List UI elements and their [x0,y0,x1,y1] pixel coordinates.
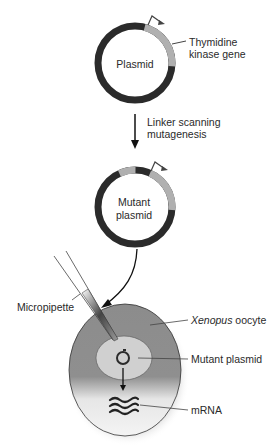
oocyte-label: Xenopus oocyte [191,314,266,326]
curved-arrow-icon [105,249,137,305]
plasmid-label: Plasmid [116,58,153,70]
step-label-line2: mutagenesis [147,128,207,140]
mutant-plasmid-label-line2: plasmid [116,209,152,221]
mutant-plasmid-label-line1: Mutant [118,196,150,208]
step-label-line1: Linker scanning [147,116,221,128]
gene-label-line1: Thymidine [189,36,237,48]
gene-label-line2: kinase gene [189,48,246,60]
micropipette-label: Micropipette [17,301,74,313]
mrna-label: mRNA [191,404,222,416]
oocyte-label-rest: oocyte [232,314,266,326]
oocyte-label-italic: Xenopus [191,314,232,326]
inner-plasmid-label: Mutant plasmid [191,353,262,365]
